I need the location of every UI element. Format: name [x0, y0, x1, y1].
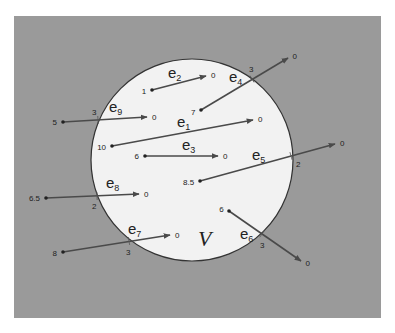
edge-start-dot [198, 179, 202, 183]
edge-start-dot [61, 120, 65, 124]
edge-start-value: 6 [219, 205, 224, 214]
edge-end-value: 0 [305, 259, 310, 268]
set-diagram: V 10e270e4350e93100e160e38.50e526.50e828… [0, 0, 395, 333]
edge-start-dot [110, 144, 114, 148]
edge-start-value: 1 [142, 87, 147, 96]
edge-start-dot [150, 88, 154, 92]
diagram-canvas: V 10e270e4350e93100e160e38.50e526.50e828… [0, 0, 395, 333]
boundary-cross-value: 3 [92, 108, 97, 117]
boundary-cross-value: 2 [296, 160, 301, 169]
edge-start-value: 10 [97, 143, 106, 152]
boundary-cross-value: 3 [260, 241, 265, 250]
edge-end-value: 0 [340, 139, 345, 148]
edge-end-value: 0 [223, 152, 228, 161]
edge-end-value: 0 [175, 231, 180, 240]
edge-start-dot [227, 209, 231, 213]
edge-start-dot [44, 196, 48, 200]
edge-end-value: 0 [258, 115, 263, 124]
boundary-cross-value: 3 [126, 248, 131, 257]
edge-start-value: 8.5 [183, 178, 195, 187]
edge-start-value: 7 [191, 108, 196, 117]
edge-start-value: 8 [53, 249, 58, 258]
edge-end-value: 0 [144, 190, 149, 199]
edge-end-value: 0 [211, 71, 216, 80]
edge-start-value: 5 [53, 118, 58, 127]
edge-start-dot [61, 250, 65, 254]
edge-end-value: 0 [152, 113, 157, 122]
edge-end-value: 0 [293, 52, 298, 61]
edge-start-value: 6.5 [29, 194, 41, 203]
boundary-cross-value: 3 [249, 65, 254, 74]
edge-start-dot [143, 154, 147, 158]
boundary-cross-value: 2 [92, 202, 97, 211]
edge-start-value: 6 [135, 152, 140, 161]
edge-start-dot [199, 108, 203, 112]
